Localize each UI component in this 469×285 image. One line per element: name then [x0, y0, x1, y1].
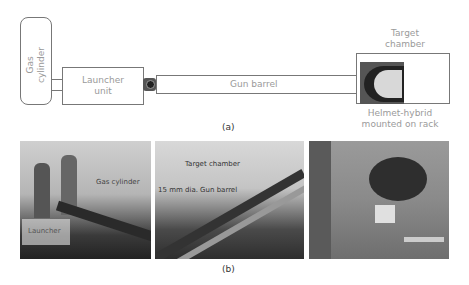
gas-cylinder-label: Gas cylinder: [25, 35, 47, 95]
photo-gas-cylinder-launcher: Gas cylinder Launcher: [20, 141, 151, 259]
photo-gun-barrel: Target chamber 15 mm dia. Gun barrel: [155, 141, 304, 259]
valve-icon: [143, 78, 156, 91]
annotation-launcher: Launcher: [28, 227, 61, 235]
connector-line: [52, 90, 62, 91]
annotation-target-chamber: Target chamber: [185, 160, 240, 168]
connector-line: [52, 79, 62, 80]
helmet-photo-thumbnail: [360, 62, 404, 104]
annotation-gas-cylinder: Gas cylinder: [96, 178, 140, 186]
photo-helmet-on-rack: [309, 141, 449, 259]
launcher-unit-label: Launcher unit: [62, 75, 144, 97]
annotation-gun-barrel: 15 mm dia. Gun barrel: [158, 186, 237, 194]
caption-b: (b): [222, 264, 235, 274]
caption-a: (a): [222, 122, 235, 132]
helmet-hybrid-label: Helmet-hybrid mounted on rack: [345, 108, 455, 130]
gun-barrel-label: Gun barrel: [230, 79, 310, 90]
target-chamber-label: Target chamber: [375, 28, 435, 50]
